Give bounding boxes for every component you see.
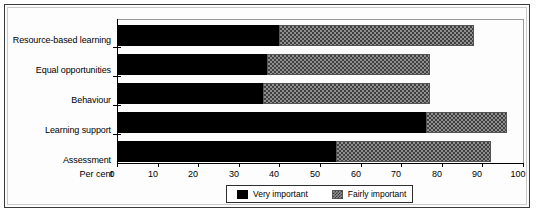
value-tick [117, 163, 118, 167]
bar-segment-fairly-important [263, 83, 430, 104]
legend-label-very-important: Very important [253, 189, 308, 199]
category-label-equal-opportunities: Equal opportunities [5, 65, 111, 75]
value-tick-label: 30 [219, 169, 249, 179]
category-tick [113, 47, 121, 48]
bar-segment-fairly-important [336, 141, 491, 162]
bar-segment-very-important [117, 54, 267, 75]
value-tick [442, 163, 443, 167]
value-tick-label: 50 [300, 169, 330, 179]
category-tick [113, 105, 121, 106]
value-tick [361, 163, 362, 167]
black-swatch-icon [237, 190, 248, 199]
category-label-resource-based-learning: Resource-based learning [5, 35, 111, 45]
plot-top-border [117, 19, 524, 20]
bar-segment-fairly-important [426, 112, 507, 133]
value-tick-label: 80 [422, 169, 452, 179]
legend-item-fairly-important: Fairly important [332, 189, 407, 199]
value-tick-label: 20 [178, 169, 208, 179]
value-tick-label: 10 [138, 169, 168, 179]
value-tick-label: 60 [341, 169, 371, 179]
bar-segment-very-important [117, 141, 336, 162]
bar-segment-very-important [117, 112, 426, 133]
figure-frame: Resource-based learning Equal opportunit… [4, 4, 530, 208]
value-tick-label: 90 [462, 169, 492, 179]
legend-item-very-important: Very important [237, 189, 308, 199]
value-tick-label: 70 [381, 169, 411, 179]
legend-label-fairly-important: Fairly important [348, 189, 407, 199]
value-tick [523, 163, 524, 167]
chart-legend: Very important Fairly important [226, 185, 413, 203]
plot-right-border [523, 19, 524, 164]
value-tick [239, 163, 240, 167]
bar-segment-very-important [117, 25, 279, 46]
category-label-assessment: Assessment [5, 155, 111, 165]
bar-segment-fairly-important [279, 25, 474, 46]
category-axis-labels: Resource-based learning Equal opportunit… [5, 5, 113, 216]
plot-area [117, 19, 523, 163]
value-tick [401, 163, 402, 167]
category-tick [113, 76, 121, 77]
category-tick [113, 134, 121, 135]
value-tick [158, 163, 159, 167]
category-label-behaviour: Behaviour [5, 95, 111, 105]
value-tick-label: 40 [259, 169, 289, 179]
value-tick [320, 163, 321, 167]
bar-segment-very-important [117, 83, 263, 104]
bar-segment-fairly-important [267, 54, 430, 75]
value-tick [482, 163, 483, 167]
value-tick [198, 163, 199, 167]
category-label-learning-support: Learning support [5, 125, 111, 135]
value-tick-label: 100 [503, 169, 533, 179]
value-axis-title: Per cent [57, 169, 113, 179]
hatched-swatch-icon [332, 190, 343, 199]
value-tick [279, 163, 280, 167]
